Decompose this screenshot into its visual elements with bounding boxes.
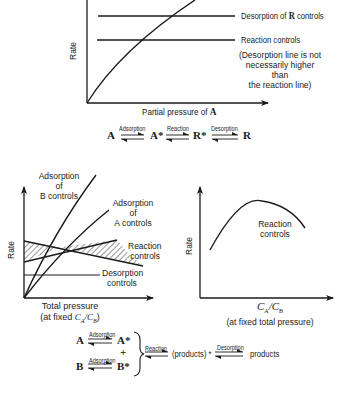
br-x-label: CA/CB (at fixed total pressure) <box>215 301 325 328</box>
top-note: (Desorption line is not necessarily high… <box>238 50 322 90</box>
br-reaction-label: Reaction controls <box>255 219 295 239</box>
bottom-right-chart <box>200 187 333 298</box>
bl-x-label: Total pressure (at fixed CA/CB) <box>15 301 125 327</box>
top-y-label: Rate <box>68 42 78 60</box>
br-y-label: Rate <box>184 237 194 255</box>
adsorption-b-label: Adsorption of B controls <box>34 171 84 201</box>
desorption-label: Desorption controls <box>102 268 142 288</box>
brace <box>134 332 144 376</box>
reaction-band-label: Reaction controls <box>128 241 160 261</box>
adsorption-a-label: Adsorption of A controls <box>108 198 158 228</box>
desorption-r-label: Desorption of R controls <box>241 11 324 21</box>
top-scheme-arrows <box>121 135 238 139</box>
bl-y-label: Rate <box>6 241 16 259</box>
reaction-controls-label: Reaction controls <box>241 35 300 45</box>
top-x-label: Partial pressure of A <box>142 106 217 117</box>
